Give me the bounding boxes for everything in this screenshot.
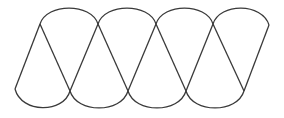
diagonal-line <box>213 24 244 91</box>
diagonal-line <box>70 24 98 91</box>
diagonal-line <box>98 24 128 91</box>
diagonal-line <box>15 24 40 89</box>
diagonal-line <box>186 24 213 91</box>
bottom-arc <box>128 91 186 108</box>
diagonal-line <box>156 24 186 91</box>
top-arc <box>213 8 269 25</box>
diagonal-line <box>244 25 269 91</box>
diagonal-line <box>128 24 156 91</box>
diagonal-line <box>40 24 70 91</box>
top-arc <box>156 8 213 24</box>
diagonal-group <box>15 24 269 91</box>
ribbon-diagram <box>0 0 284 118</box>
top-arc <box>98 8 156 24</box>
top-arc <box>40 8 98 24</box>
diagram-canvas <box>0 0 284 118</box>
bottom-arc <box>70 91 128 108</box>
bottom-arc <box>186 91 244 108</box>
bottom-arc <box>15 89 70 108</box>
